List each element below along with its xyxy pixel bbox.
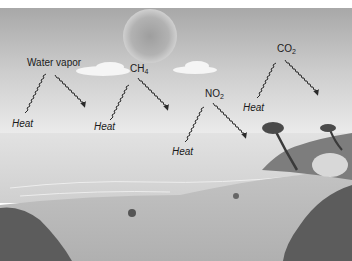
gas-subscript: 2 (220, 93, 224, 100)
heat-label-no2: Heat (172, 147, 193, 157)
heat-label-co2: Heat (243, 103, 264, 113)
greenhouse-scene (0, 0, 352, 261)
gas-name: NO (205, 88, 220, 99)
gas-subscript: 4 (144, 68, 148, 75)
gas-name: Water vapor (27, 57, 81, 68)
gas-name: CO (277, 43, 292, 54)
label-ch4: CH4 (130, 64, 148, 75)
label-no2: NO2 (205, 89, 224, 100)
label-co2: CO2 (277, 44, 296, 55)
label-water-vapor: Water vapor (27, 58, 81, 68)
gas-name: CH (130, 63, 144, 74)
gas-subscript: 2 (292, 48, 296, 55)
heat-label-water-vapor: Heat (12, 119, 33, 129)
sun (123, 9, 177, 63)
heat-label-ch4: Heat (94, 122, 115, 132)
